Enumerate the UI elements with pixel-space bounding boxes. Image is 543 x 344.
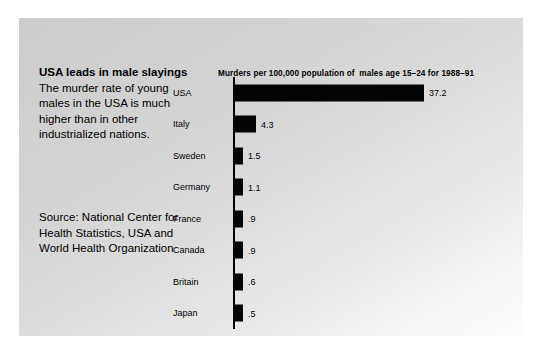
bar-row: USA37.2 bbox=[179, 77, 519, 109]
bar-and-value: .9 bbox=[234, 210, 256, 227]
bar-chart-plot: USA37.2Italy4.3Sweden1.5Germany1.1France… bbox=[179, 77, 519, 329]
bar-germany bbox=[234, 179, 243, 196]
category-label-sweden: Sweden bbox=[173, 151, 233, 161]
category-label-germany: Germany bbox=[173, 182, 233, 192]
source-note: Source: National Center for Health Stati… bbox=[39, 210, 194, 257]
bar-row: Canada.9 bbox=[179, 235, 519, 267]
bar-france bbox=[234, 210, 243, 227]
category-label-canada: Canada bbox=[173, 245, 233, 255]
bar-and-value: 1.5 bbox=[234, 147, 261, 164]
bar-britain bbox=[234, 273, 243, 290]
bar-row: Italy4.3 bbox=[179, 109, 519, 141]
category-label-france: France bbox=[173, 214, 233, 224]
editorial-text-block: USA leads in male slayings The murder ra… bbox=[39, 65, 189, 143]
bar-and-value: 37.2 bbox=[234, 84, 447, 101]
bar-and-value: .5 bbox=[234, 305, 256, 322]
bar-and-value: 1.1 bbox=[234, 179, 261, 196]
value-label-france: .9 bbox=[248, 214, 256, 224]
value-label-sweden: 1.5 bbox=[248, 151, 261, 161]
value-label-germany: 1.1 bbox=[248, 182, 261, 192]
bar-italy bbox=[234, 116, 256, 133]
bar-japan bbox=[234, 305, 243, 322]
category-label-britain: Britain bbox=[173, 277, 233, 287]
bar-and-value: .6 bbox=[234, 273, 256, 290]
bar-row: Japan.5 bbox=[179, 298, 519, 330]
value-label-usa: 37.2 bbox=[429, 88, 447, 98]
bar-row: Britain.6 bbox=[179, 266, 519, 298]
chart-panel: USA leads in male slayings The murder ra… bbox=[19, 18, 523, 336]
category-label-japan: Japan bbox=[173, 308, 233, 318]
bar-canada bbox=[234, 242, 243, 259]
bar-row: Germany1.1 bbox=[179, 172, 519, 204]
bar-and-value: .9 bbox=[234, 242, 256, 259]
deck-text: The murder rate of young males in the US… bbox=[39, 81, 189, 143]
value-label-britain: .6 bbox=[248, 277, 256, 287]
value-label-japan: .5 bbox=[248, 308, 256, 318]
bar-usa bbox=[234, 84, 424, 101]
value-label-canada: .9 bbox=[248, 245, 256, 255]
bar-row: France.9 bbox=[179, 203, 519, 235]
bar-sweden bbox=[234, 147, 243, 164]
bar-and-value: 4.3 bbox=[234, 116, 273, 133]
bar-row: Sweden1.5 bbox=[179, 140, 519, 172]
category-label-usa: USA bbox=[173, 88, 233, 98]
value-label-italy: 4.3 bbox=[261, 119, 274, 129]
figure-container: USA leads in male slayings The murder ra… bbox=[0, 0, 543, 344]
headline: USA leads in male slayings bbox=[39, 65, 189, 81]
category-label-italy: Italy bbox=[173, 119, 233, 129]
